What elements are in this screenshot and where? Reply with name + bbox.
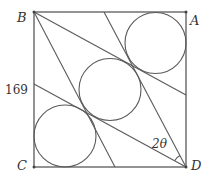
vertex-b-dot [33, 11, 36, 14]
line-b-to-bottom-edge [34, 12, 115, 167]
angle-arc-2theta [175, 156, 180, 161]
label-a: A [189, 13, 199, 28]
angle-label: 2θ [151, 137, 168, 151]
vertex-d-dot [185, 166, 188, 169]
line-d-to-left-edge [34, 84, 186, 167]
side-length-label: 169 [5, 83, 28, 97]
label-c: C [17, 158, 27, 173]
label-b: B [16, 10, 27, 25]
circle-top-right [125, 13, 186, 74]
vertex-c-dot [33, 166, 36, 169]
label-d: D [190, 158, 202, 173]
geometry-diagram: B A C D 169 2θ [0, 0, 216, 181]
line-d-to-top-edge [104, 12, 186, 167]
vertex-a-dot [185, 11, 188, 14]
circle-bottom-left [34, 105, 96, 167]
circle-middle [79, 59, 141, 121]
